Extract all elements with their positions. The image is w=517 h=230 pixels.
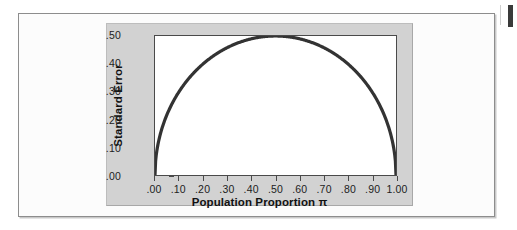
x-tick-label: .40 [244,183,259,195]
x-tick-mark [203,176,204,181]
x-tick-label: .20 [195,183,210,195]
y-axis-title: Standard Error [110,35,126,176]
y-tick-label: .50 [106,29,121,41]
y-tick-label: .10 [106,142,121,154]
x-tick-label: 1.00 [386,183,407,195]
x-tick-mark [227,176,228,181]
x-tick-label: .10 [171,183,186,195]
x-tick-mark [373,176,374,181]
y-tick-label: .30 [106,85,121,97]
page-edge-mark [508,5,513,27]
x-tick-mark [276,176,277,181]
page-edge-rule [500,5,501,25]
x-axis-title-text: Population Proportion [192,196,315,208]
x-tick-label: .30 [219,183,234,195]
y-tick-label: .40 [106,57,121,69]
x-tick-label: .60 [292,183,307,195]
x-tick-label: .00 [146,183,161,195]
figure-box: Standard Error .00.10.20.30.40.50 .00.10… [18,13,495,217]
x-tick-mark [397,176,398,181]
plot-area [154,35,397,176]
x-tick-label: .50 [268,183,283,195]
y-tick-mark [169,176,174,177]
x-tick-mark [348,176,349,181]
x-tick-mark [154,176,155,181]
y-tick-label: .00 [106,170,121,182]
x-tick-mark [251,176,252,181]
chart-panel: Standard Error .00.10.20.30.40.50 .00.10… [106,23,413,206]
y-tick-label: .20 [106,114,121,126]
x-tick-mark [300,176,301,181]
x-tick-label: .70 [316,183,331,195]
x-tick-mark [324,176,325,181]
x-axis-title: Population Proportion π [107,196,412,208]
standard-error-curve [155,36,396,175]
y-axis-tick-labels: .00.10.20.30.40.50 [127,24,151,207]
x-tick-label: .80 [341,183,356,195]
x-tick-mark [178,176,179,181]
pi-symbol: π [318,196,327,208]
x-tick-label: .90 [365,183,380,195]
